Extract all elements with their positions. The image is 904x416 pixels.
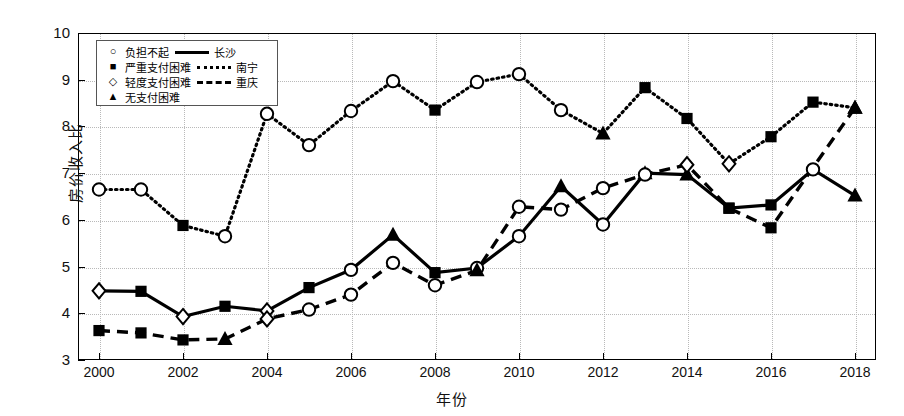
data-point-marker-circle bbox=[303, 139, 315, 151]
legend-line-swatch-solid bbox=[175, 46, 209, 57]
data-point-marker-circle bbox=[597, 218, 609, 230]
legend-marker-label: 轻度支付困难 bbox=[125, 74, 191, 90]
data-point-marker-circle bbox=[429, 279, 441, 291]
data-point-marker-circle bbox=[135, 183, 147, 195]
data-point-marker-circle bbox=[345, 264, 357, 276]
data-point-marker-square bbox=[429, 267, 440, 278]
data-point-marker-circle bbox=[513, 230, 525, 242]
series-markers bbox=[93, 163, 863, 324]
data-point-marker-square bbox=[135, 286, 146, 297]
data-point-marker-circle bbox=[513, 68, 525, 80]
x-tick-label: 2002 bbox=[153, 364, 213, 380]
x-tick-label: 2010 bbox=[489, 364, 549, 380]
data-point-marker-circle bbox=[93, 183, 105, 195]
data-point-marker-square bbox=[765, 222, 776, 233]
y-tick-label: 3 bbox=[30, 351, 70, 368]
data-point-marker-square bbox=[135, 327, 146, 338]
data-point-marker-triangle bbox=[553, 178, 568, 192]
data-point-marker-circle bbox=[345, 105, 357, 117]
data-point-marker-diamond bbox=[177, 309, 190, 324]
data-point-marker-circle bbox=[387, 257, 399, 269]
data-point-marker-square bbox=[765, 131, 776, 142]
data-point-marker-square bbox=[681, 113, 692, 124]
x-tick-label: 2008 bbox=[405, 364, 465, 380]
data-point-marker-circle bbox=[471, 76, 483, 88]
x-tick-label: 2004 bbox=[237, 364, 297, 380]
data-point-marker-circle bbox=[807, 163, 819, 175]
chart-legend: ○负担不起长沙■严重支付困难南宁◇轻度支付困难重庆▲无支付困难 bbox=[96, 40, 278, 106]
data-point-marker-circle bbox=[219, 230, 231, 242]
legend-line-swatch-dotted bbox=[197, 61, 231, 72]
legend-marker-label: 严重支付困难 bbox=[125, 59, 191, 75]
data-point-marker-diamond bbox=[93, 283, 106, 298]
legend-line-entry: 南宁 bbox=[195, 59, 258, 75]
series-solid bbox=[99, 169, 855, 316]
marker-diamond-icon: ◇ bbox=[101, 76, 125, 87]
legend-line-entry: 重庆 bbox=[195, 74, 258, 90]
data-point-marker-square bbox=[807, 97, 818, 108]
legend-line-entry: 长沙 bbox=[173, 44, 236, 60]
x-tick-label: 2000 bbox=[69, 364, 129, 380]
legend-marker-label: 无支付困难 bbox=[125, 89, 180, 105]
series-line bbox=[99, 169, 855, 316]
data-point-marker-square bbox=[177, 220, 188, 231]
legend-row: ◇轻度支付困难重庆 bbox=[101, 74, 273, 89]
x-tick-label: 2018 bbox=[825, 364, 885, 380]
data-point-marker-circle bbox=[555, 104, 567, 116]
data-point-marker-circle bbox=[555, 203, 567, 215]
x-tick-label: 2006 bbox=[321, 364, 381, 380]
series-line bbox=[99, 108, 855, 340]
y-tick-mark bbox=[78, 360, 85, 361]
legend-line-label: 南宁 bbox=[236, 59, 258, 75]
legend-line-swatch-dashed bbox=[197, 76, 231, 87]
data-point-marker-square bbox=[639, 82, 650, 93]
x-tick-label: 2012 bbox=[573, 364, 633, 380]
y-tick-label: 9 bbox=[30, 71, 70, 88]
data-point-marker-circle bbox=[639, 168, 651, 180]
y-tick-label: 10 bbox=[30, 24, 70, 41]
data-point-marker-square bbox=[765, 199, 776, 210]
data-point-marker-circle bbox=[303, 303, 315, 315]
marker-square-icon: ■ bbox=[101, 61, 125, 72]
data-point-marker-triangle bbox=[385, 227, 400, 241]
legend-row: ■严重支付困难南宁 bbox=[101, 59, 273, 74]
x-tick-label: 2016 bbox=[741, 364, 801, 380]
series-dashed bbox=[99, 108, 855, 340]
data-point-marker-circle bbox=[513, 201, 525, 213]
data-point-marker-circle bbox=[345, 288, 357, 300]
data-point-marker-circle bbox=[597, 182, 609, 194]
legend-row: ▲无支付困难 bbox=[101, 89, 273, 104]
x-axis-label: 年份 bbox=[0, 388, 904, 409]
data-point-marker-square bbox=[219, 301, 230, 312]
data-point-marker-square bbox=[429, 104, 440, 115]
data-point-marker-circle bbox=[261, 108, 273, 120]
marker-triangle-icon: ▲ bbox=[101, 91, 125, 102]
legend-row: ○负担不起长沙 bbox=[101, 44, 273, 59]
legend-line-label: 重庆 bbox=[236, 74, 258, 90]
data-point-marker-square bbox=[93, 325, 104, 336]
legend-line-label: 长沙 bbox=[214, 44, 236, 60]
marker-circle-icon: ○ bbox=[101, 46, 125, 57]
legend-marker-label: 负担不起 bbox=[125, 44, 169, 60]
chart-figure: 345678910 200020022004200620082010201220… bbox=[0, 0, 904, 416]
data-point-marker-diamond bbox=[681, 157, 694, 172]
x-tick-label: 2014 bbox=[657, 364, 717, 380]
data-point-marker-circle bbox=[387, 75, 399, 87]
y-tick-label: 5 bbox=[30, 258, 70, 275]
data-point-marker-diamond bbox=[723, 156, 736, 171]
data-point-marker-square bbox=[303, 282, 314, 293]
data-point-marker-triangle bbox=[847, 188, 862, 202]
y-tick-label: 4 bbox=[30, 304, 70, 321]
data-point-marker-square bbox=[723, 203, 734, 214]
data-point-marker-square bbox=[177, 334, 188, 345]
